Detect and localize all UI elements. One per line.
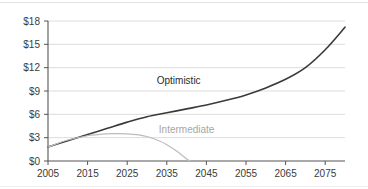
y-tick-label: $0	[29, 156, 41, 167]
chart-container: $0$3$6$9$12$15$18 2005201520252035204520…	[0, 0, 368, 189]
y-tick-label: $12	[23, 62, 40, 73]
x-tick-label: 2045	[195, 168, 218, 179]
y-tick-label: $18	[23, 16, 40, 27]
x-axis-ticks	[48, 161, 325, 165]
y-axis-tick-labels: $0$3$6$9$12$15$18	[23, 16, 40, 167]
y-tick-label: $15	[23, 39, 40, 50]
top-border-line	[0, 2, 368, 3]
y-tick-label: $9	[29, 86, 41, 97]
x-tick-label: 2055	[235, 168, 258, 179]
x-tick-label: 2075	[314, 168, 337, 179]
line-chart-svg: $0$3$6$9$12$15$18 2005201520252035204520…	[0, 0, 368, 189]
x-axis-tick-labels: 20052015202520352045205520652075	[37, 168, 337, 179]
y-tick-label: $6	[29, 109, 41, 120]
series-label-intermediate: Intermediate	[159, 124, 215, 135]
series-label-optimistic: Optimistic	[157, 75, 201, 86]
x-tick-label: 2015	[76, 168, 99, 179]
y-axis-ticks	[44, 21, 48, 161]
x-tick-label: 2025	[116, 168, 139, 179]
bottom-border-line	[0, 186, 368, 187]
series-lines	[48, 27, 345, 161]
y-tick-label: $3	[29, 132, 41, 143]
x-tick-label: 2065	[274, 168, 297, 179]
x-tick-label: 2005	[37, 168, 60, 179]
x-tick-label: 2035	[156, 168, 179, 179]
